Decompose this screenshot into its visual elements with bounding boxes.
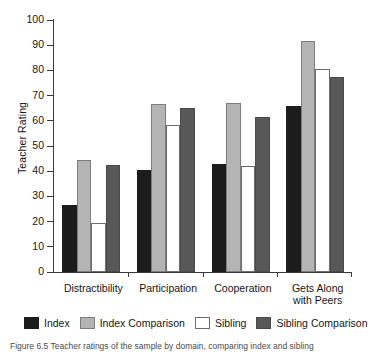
bar-cooperation-index [212, 164, 227, 272]
x-tick-participation [128, 272, 129, 277]
bar-participation-sibling-comparison [180, 108, 195, 272]
x-tick-end [351, 272, 352, 277]
legend-swatch-index [24, 317, 39, 329]
bar-cooperation-sibling [241, 166, 256, 272]
figure-container: Teacher Rating 1009080706050403020100 Di… [0, 0, 368, 353]
bar-distractibility-index [62, 205, 77, 272]
legend-item-index: Index [24, 317, 70, 329]
legend-label-index-comparison: Index Comparison [100, 317, 185, 329]
x-tick-gets-along-with-peers [277, 272, 278, 277]
y-tick-label: 70 [32, 89, 44, 101]
legend-swatch-index-comparison [80, 317, 95, 329]
bar-group-gets-along-with-peers [286, 20, 344, 272]
y-tick-label: 80 [32, 63, 44, 75]
y-tick-label: 100 [26, 13, 44, 25]
bar-distractibility-sibling [91, 223, 106, 272]
chart-legend: IndexIndex ComparisonSiblingSibling Comp… [24, 317, 368, 329]
y-tick-label: 0 [38, 265, 44, 277]
bar-gets-along-with-peers-sibling-comparison [330, 77, 345, 272]
legend-item-sibling: Sibling [195, 317, 247, 329]
y-tick-label: 40 [32, 164, 44, 176]
bar-participation-sibling [166, 125, 181, 272]
plot-area [53, 20, 352, 272]
y-tick-label: 60 [32, 114, 44, 126]
bar-participation-index-comparison [151, 104, 166, 272]
figure-caption: Figure 6.5 Teacher ratings of the sample… [10, 341, 362, 353]
bar-group-distractibility [62, 20, 120, 272]
legend-label-sibling: Sibling [215, 317, 247, 329]
bar-gets-along-with-peers-index-comparison [301, 41, 316, 272]
x-axis-label-distractibility: Distractibility [51, 283, 135, 295]
y-tick-label: 20 [32, 215, 44, 227]
legend-item-sibling-comparison: Sibling Comparison [256, 317, 367, 329]
legend-label-sibling-comparison: Sibling Comparison [276, 317, 367, 329]
y-tick-label: 90 [32, 38, 44, 50]
legend-swatch-sibling-comparison [256, 317, 271, 329]
bar-distractibility-index-comparison [77, 160, 92, 272]
x-axis-label-participation: Participation [126, 283, 210, 295]
x-tick-cooperation [203, 272, 204, 277]
bar-distractibility-sibling-comparison [106, 165, 121, 272]
bar-gets-along-with-peers-sibling [315, 69, 330, 272]
legend-label-index: Index [44, 317, 70, 329]
bar-group-cooperation [212, 20, 270, 272]
y-axis-title: Teacher Rating [16, 68, 28, 208]
y-tick-label: 10 [32, 240, 44, 252]
bar-participation-index [137, 170, 152, 272]
bar-cooperation-index-comparison [226, 103, 241, 272]
bar-group-participation [137, 20, 195, 272]
bar-cooperation-sibling-comparison [255, 117, 270, 272]
legend-item-index-comparison: Index Comparison [80, 317, 185, 329]
bar-gets-along-with-peers-index [286, 106, 301, 272]
y-tick-label: 30 [32, 189, 44, 201]
x-axis-label-gets-along-with-peers: Gets Along with Peers [276, 283, 360, 306]
y-tick-label: 50 [32, 139, 44, 151]
x-axis-label-cooperation: Cooperation [201, 283, 285, 295]
legend-swatch-sibling [195, 317, 210, 329]
